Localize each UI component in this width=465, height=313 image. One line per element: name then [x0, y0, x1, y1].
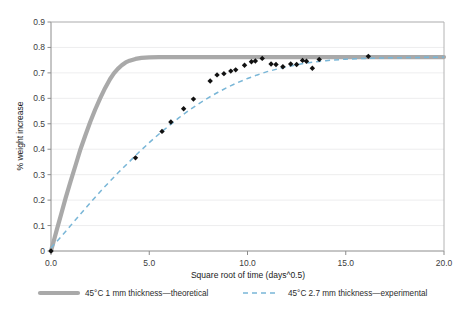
- y-tick-label: 0.5: [33, 119, 45, 129]
- x-tick-label: 0.0: [45, 258, 57, 268]
- y-tick-label: 0.7: [33, 68, 45, 78]
- y-axis-ticks: 00.10.20.30.40.50.60.70.80.9: [33, 17, 51, 256]
- y-tick-label: 0.1: [33, 221, 45, 231]
- y-tick-label: 0.9: [33, 17, 45, 27]
- legend-label: 45°C 2.7 mm thickness—experimental: [288, 289, 428, 298]
- data-point: [207, 78, 212, 83]
- series-path-theoretical: [51, 57, 444, 251]
- y-tick-label: 0.6: [33, 93, 45, 103]
- x-tick-label: 5.0: [143, 258, 155, 268]
- data-point: [191, 96, 196, 101]
- chart-figure: 00.10.20.30.40.50.60.70.80.9 0.05.010.01…: [0, 0, 465, 313]
- x-axis-title: Square root of time (days^0.5): [191, 270, 305, 280]
- data-point: [268, 61, 273, 66]
- chart-canvas: 00.10.20.30.40.50.60.70.80.9 0.05.010.01…: [0, 0, 465, 313]
- x-axis-ticks: 0.05.010.015.020.0: [45, 251, 452, 268]
- data-point: [242, 63, 247, 68]
- series-path-experimental: [51, 57, 444, 248]
- y-tick-label: 0.2: [33, 195, 45, 205]
- data-point: [310, 66, 315, 71]
- data-point: [181, 106, 186, 111]
- data-point: [273, 62, 278, 67]
- data-point: [294, 62, 299, 67]
- y-tick-label: 0.3: [33, 170, 45, 180]
- y-tick-label: 0.8: [33, 42, 45, 52]
- series-experimental-line: [51, 57, 444, 248]
- series-theoretical-line: [51, 57, 444, 251]
- gridlines: [51, 22, 444, 226]
- data-point: [233, 67, 238, 72]
- scatter-datapoints: [48, 54, 371, 254]
- data-point: [221, 71, 226, 76]
- x-tick-label: 10.0: [239, 258, 256, 268]
- y-axis-title: % weight increase: [15, 101, 25, 170]
- legend: 45°C 1 mm thickness—theoretical45°C 2.7 …: [40, 289, 428, 298]
- data-point: [133, 155, 138, 160]
- y-tick-label: 0.4: [33, 144, 45, 154]
- x-tick-label: 15.0: [337, 258, 354, 268]
- x-tick-label: 20.0: [436, 258, 453, 268]
- data-point: [249, 59, 254, 64]
- legend-label: 45°C 1 mm thickness—theoretical: [85, 289, 209, 298]
- y-tick-label: 0: [40, 246, 45, 256]
